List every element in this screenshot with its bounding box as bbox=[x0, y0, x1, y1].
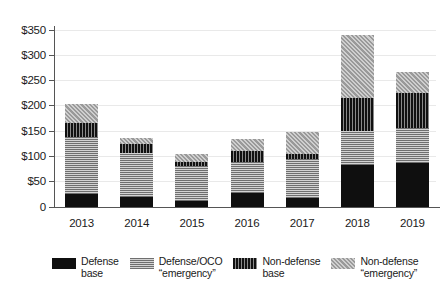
bar-segment-non-defense-emergency bbox=[341, 35, 374, 98]
defense-base-swatch bbox=[52, 258, 76, 269]
y-axis-labels: $350 $300 $250 $200 $150 $100 $50 0 bbox=[0, 0, 46, 294]
bar-segment-defense-base bbox=[65, 194, 98, 207]
bar-segment-defense-oco-emergency bbox=[286, 159, 319, 198]
bar-segment-non-defense-base bbox=[175, 162, 208, 166]
legend-item-label: Defense/OCO “emergency” bbox=[159, 256, 223, 279]
bar-segment-defense-base bbox=[341, 165, 374, 207]
bar-2016[interactable] bbox=[231, 139, 264, 207]
y-tick-label: $100 bbox=[0, 150, 46, 162]
bar-segment-defense-oco-emergency bbox=[231, 162, 264, 193]
x-tick-label: 2018 bbox=[330, 217, 384, 229]
bar-segment-defense-base bbox=[175, 201, 208, 207]
bar-segment-non-defense-emergency bbox=[175, 154, 208, 162]
bars-layer bbox=[54, 26, 440, 207]
bar-2014[interactable] bbox=[120, 138, 153, 207]
bar-segment-defense-base bbox=[396, 163, 429, 207]
y-tick-label: $300 bbox=[0, 49, 46, 61]
x-tick-label: 2017 bbox=[275, 217, 329, 229]
defense-oco-swatch bbox=[130, 258, 154, 269]
x-tick-label: 2015 bbox=[165, 217, 219, 229]
bar-segment-defense-oco-emergency bbox=[396, 128, 429, 163]
y-tick-label: $250 bbox=[0, 74, 46, 86]
bar-2019[interactable] bbox=[396, 72, 429, 207]
y-tick-label: $350 bbox=[0, 24, 46, 36]
nondefense-base-swatch bbox=[233, 258, 257, 269]
bar-segment-defense-base bbox=[231, 193, 264, 207]
bar-segment-non-defense-emergency bbox=[65, 104, 98, 123]
bar-segment-defense-oco-emergency bbox=[175, 166, 208, 201]
y-tick-label: $150 bbox=[0, 125, 46, 137]
bar-2018[interactable] bbox=[341, 35, 374, 207]
legend-item-4[interactable]: Non-defense “emergency” bbox=[331, 256, 418, 279]
bar-segment-non-defense-base bbox=[65, 123, 98, 137]
x-tick-label: 2013 bbox=[55, 217, 109, 229]
y-tick-label: $50 bbox=[0, 175, 46, 187]
bar-segment-non-defense-base bbox=[341, 98, 374, 131]
bar-segment-non-defense-base bbox=[120, 144, 153, 153]
legend-item-label: Non-defense “emergency” bbox=[360, 256, 418, 279]
legend-item-3[interactable]: Non-defense base bbox=[233, 256, 320, 279]
bar-segment-defense-base bbox=[120, 197, 153, 207]
bar-segment-non-defense-base bbox=[286, 154, 319, 159]
x-axis-line bbox=[54, 207, 440, 208]
bar-segment-non-defense-emergency bbox=[286, 132, 319, 155]
y-tick-label: 0 bbox=[0, 201, 46, 213]
bar-segment-defense-base bbox=[286, 198, 319, 207]
legend-item-2[interactable]: Defense/OCO “emergency” bbox=[130, 256, 223, 279]
legend-item-label: Non-defense base bbox=[262, 256, 320, 279]
bar-segment-non-defense-emergency bbox=[396, 72, 429, 93]
stacked-bar-chart: $350 $300 $250 $200 $150 $100 $50 0 2013… bbox=[0, 0, 447, 294]
x-tick-label: 2014 bbox=[110, 217, 164, 229]
bar-segment-defense-oco-emergency bbox=[120, 153, 153, 197]
bar-segment-defense-oco-emergency bbox=[341, 131, 374, 166]
y-tick-label: $200 bbox=[0, 99, 46, 111]
x-tick-label: 2019 bbox=[385, 217, 439, 229]
bar-segment-defense-oco-emergency bbox=[65, 137, 98, 194]
bar-segment-non-defense-base bbox=[396, 93, 429, 128]
legend-item-label: Defense base bbox=[81, 256, 119, 279]
bar-segment-non-defense-emergency bbox=[120, 138, 153, 144]
nondefense-emergency-swatch bbox=[331, 258, 355, 269]
legend-item-1[interactable]: Defense base bbox=[52, 256, 119, 279]
x-axis-labels: 2013201420152016201720182019 bbox=[54, 212, 440, 234]
bar-segment-non-defense-base bbox=[231, 151, 264, 162]
bar-2015[interactable] bbox=[175, 154, 208, 207]
bar-segment-non-defense-emergency bbox=[231, 139, 264, 151]
bar-2013[interactable] bbox=[65, 104, 98, 207]
chart-legend: Defense baseDefense/OCO “emergency”Non-d… bbox=[52, 256, 432, 288]
bar-2017[interactable] bbox=[286, 132, 319, 207]
x-tick-label: 2016 bbox=[220, 217, 274, 229]
